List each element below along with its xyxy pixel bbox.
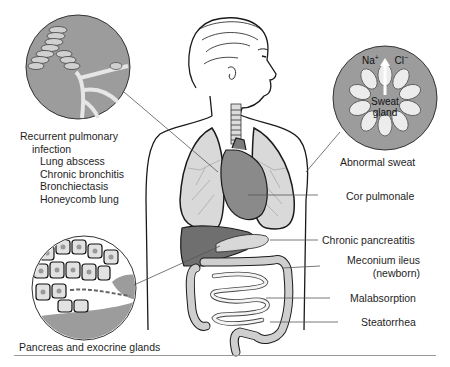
label-chronic-pancreatitis: Chronic pancreatitis xyxy=(322,234,415,247)
pulmonary-heading-line2: infection xyxy=(20,143,124,156)
label-pancreas-glands: Pancreas and exocrine glands xyxy=(19,341,160,354)
bottom-rule xyxy=(14,355,436,356)
label-steatorrhea: Steatorrhea xyxy=(361,316,416,329)
pulmonary-item-lung-abscess: Lung abscess xyxy=(20,155,124,168)
label-meconium-ileus: Meconium ileus (newborn) xyxy=(330,254,420,279)
pulmonary-item-chronic-bronchitis: Chronic bronchitis xyxy=(20,168,124,181)
pancreas-inset xyxy=(30,236,140,345)
pulmonary-heading-line1: Recurrent pulmonary xyxy=(20,130,124,143)
pulmonary-heading: Recurrent pulmonary infection Lung absce… xyxy=(20,130,124,205)
label-malabsorption: Malabsorption xyxy=(350,292,416,305)
sweat-gland-label: Sweat gland xyxy=(360,96,410,118)
label-abnormal-sweat: Abnormal sweat xyxy=(340,156,415,169)
pulmonary-item-bronchiectasis: Bronchiectasis xyxy=(20,180,124,193)
bronchi-inset xyxy=(26,15,130,119)
sweat-ions: Na+ Cl− xyxy=(355,52,415,66)
label-cor-pulmonale: Cor pulmonale xyxy=(346,190,414,203)
sodium-ion: Na+ xyxy=(362,55,379,66)
chloride-ion: Cl− xyxy=(394,55,408,66)
pulmonary-item-honeycomb-lung: Honeycomb lung xyxy=(20,193,124,206)
